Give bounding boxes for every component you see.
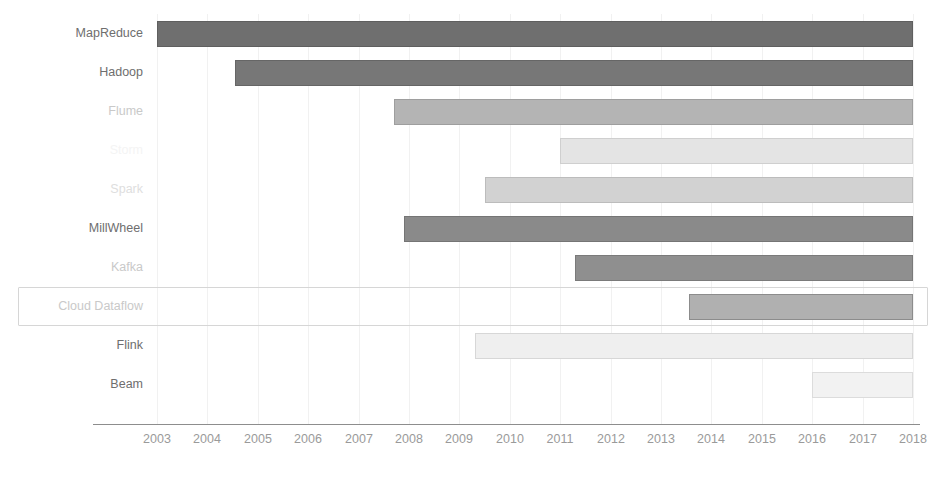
timeline-bar-flume[interactable] (394, 99, 913, 125)
x-tick-label-2010: 2010 (482, 432, 538, 446)
row-label-beam: Beam (0, 365, 143, 404)
x-tick-label-2017: 2017 (835, 432, 891, 446)
x-tick-label-2008: 2008 (381, 432, 437, 446)
row-label-kafka: Kafka (0, 248, 143, 287)
x-tick-label-2005: 2005 (230, 432, 286, 446)
timeline-row[interactable]: MapReduce (0, 14, 940, 53)
x-tick-label-2015: 2015 (734, 432, 790, 446)
x-tick-label-2004: 2004 (179, 432, 235, 446)
x-tick-label-2016: 2016 (784, 432, 840, 446)
timeline-bar-kafka[interactable] (575, 255, 913, 281)
x-tick-label-2007: 2007 (331, 432, 387, 446)
row-label-millwheel: MillWheel (0, 209, 143, 248)
row-label-spark: Spark (0, 170, 143, 209)
row-label-flink: Flink (0, 326, 143, 365)
row-label-mapreduce: MapReduce (0, 14, 143, 53)
row-label-hadoop: Hadoop (0, 53, 143, 92)
timeline-bar-mapreduce[interactable] (157, 21, 913, 47)
x-tick-label-2012: 2012 (583, 432, 639, 446)
row-label-flume: Flume (0, 92, 143, 131)
x-tick-label-2009: 2009 (431, 432, 487, 446)
x-tick-label-2014: 2014 (683, 432, 739, 446)
timeline-bar-millwheel[interactable] (404, 216, 913, 242)
timeline-bar-beam[interactable] (812, 372, 913, 398)
timeline-bar-spark[interactable] (485, 177, 913, 203)
timeline-bar-hadoop[interactable] (235, 60, 913, 86)
x-axis-line (93, 424, 920, 425)
x-tick-label-2011: 2011 (532, 432, 588, 446)
timeline-row[interactable]: Hadoop (0, 53, 940, 92)
x-tick-label-2013: 2013 (633, 432, 689, 446)
timeline-row[interactable]: Flink (0, 326, 940, 365)
timeline-chart-page: MapReduceHadoopFlumeStormSparkMillWheelK… (0, 0, 940, 481)
timeline-row[interactable]: Storm (0, 131, 940, 170)
timeline-bar-flink[interactable] (475, 333, 913, 359)
row-label-cloud-dataflow: Cloud Dataflow (0, 287, 143, 326)
chart-plot-area: MapReduceHadoopFlumeStormSparkMillWheelK… (0, 0, 940, 481)
timeline-row[interactable]: Flume (0, 92, 940, 131)
row-label-storm: Storm (0, 131, 143, 170)
timeline-row[interactable]: Spark (0, 170, 940, 209)
x-tick-label-2003: 2003 (129, 432, 185, 446)
timeline-row[interactable]: Beam (0, 365, 940, 404)
timeline-bar-storm[interactable] (560, 138, 913, 164)
timeline-bar-cloud-dataflow[interactable] (689, 294, 913, 320)
x-tick-label-2018: 2018 (885, 432, 940, 446)
x-tick-label-2006: 2006 (280, 432, 336, 446)
timeline-row[interactable]: MillWheel (0, 209, 940, 248)
timeline-row[interactable]: Cloud Dataflow (0, 287, 940, 326)
timeline-row[interactable]: Kafka (0, 248, 940, 287)
